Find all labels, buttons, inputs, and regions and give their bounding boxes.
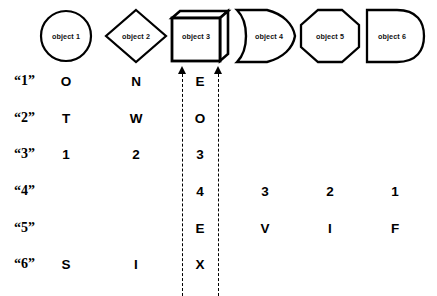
row-label-5: “5” (14, 220, 60, 236)
cell-r5c3: E (180, 221, 220, 236)
data-grid: “1” O N E “2” T W O “3” 1 2 3 “4” 4 3 2 … (0, 0, 437, 296)
cell-r2c3: O (180, 111, 220, 126)
cell-r4c6: 1 (375, 184, 415, 199)
cell-r6c2: I (116, 257, 156, 272)
cell-r3c1: 1 (46, 147, 86, 162)
diagram-canvas: object 1 object 2 object 3 object 4 (0, 0, 437, 296)
cell-r1c2: N (116, 74, 156, 89)
cell-r6c3: X (180, 257, 220, 272)
cell-r4c5: 2 (310, 184, 350, 199)
cell-r2c2: W (116, 111, 156, 126)
cell-r5c4: V (245, 221, 285, 236)
cell-r1c1: O (46, 74, 86, 89)
cell-r3c2: 2 (116, 147, 156, 162)
cell-r5c5: I (310, 221, 350, 236)
cell-r5c6: F (375, 221, 415, 236)
cell-r2c1: T (46, 111, 86, 126)
cell-r6c1: S (46, 257, 86, 272)
row-label-4: “4” (14, 183, 60, 199)
cell-r4c4: 3 (245, 184, 285, 199)
cell-r3c3: 3 (180, 147, 220, 162)
cell-r1c3: E (180, 74, 220, 89)
cell-r4c3: 4 (180, 184, 220, 199)
